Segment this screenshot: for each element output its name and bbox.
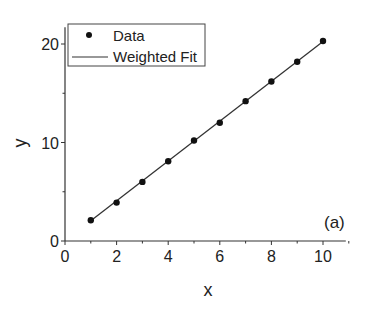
x-tick-label: 2	[112, 248, 121, 265]
x-tick-label: 6	[215, 248, 224, 265]
y-tick-label: 0	[50, 233, 59, 250]
data-point	[268, 78, 274, 84]
y-tick-label: 20	[41, 36, 59, 53]
x-tick-label: 10	[314, 248, 332, 265]
data-point	[217, 120, 223, 126]
legend-fit-label: Weighted Fit	[113, 48, 198, 65]
x-tick-label: 0	[61, 248, 70, 265]
x-tick-label: 4	[164, 248, 173, 265]
data-point	[88, 217, 94, 223]
data-point	[320, 38, 326, 44]
data-point	[191, 137, 197, 143]
fit-line-series	[91, 42, 323, 221]
data-point	[242, 98, 248, 104]
y-axis-label: y	[10, 139, 30, 148]
legend: Data Weighted Fit	[68, 24, 205, 66]
x-axis-label: x	[204, 280, 213, 300]
chart: 024681001020 Data Weighted Fit x y (a)	[0, 0, 366, 318]
data-point	[294, 59, 300, 65]
legend-data-marker-icon	[86, 32, 92, 38]
panel-label: (a)	[324, 213, 345, 232]
legend-data-label: Data	[113, 27, 145, 44]
data-point	[139, 179, 145, 185]
y-tick-label: 10	[41, 135, 59, 152]
data-point	[165, 158, 171, 164]
fit-line	[91, 42, 323, 221]
data-point	[113, 199, 119, 205]
x-tick-label: 8	[267, 248, 276, 265]
